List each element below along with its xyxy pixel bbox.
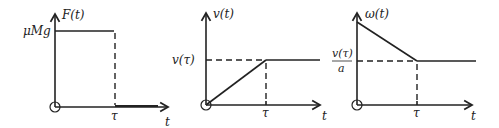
- panel-force: F(t) μMg τ t: [23, 8, 170, 128]
- tau-label: τ: [262, 106, 269, 120]
- omega-ramp: [357, 22, 417, 61]
- x-axis-label: t: [322, 109, 327, 123]
- omega-level-numerator: v(τ): [332, 47, 353, 60]
- velocity-ramp: [206, 60, 266, 105]
- y-axis-label: ω(t): [365, 7, 389, 21]
- x-axis-label: t: [471, 109, 476, 123]
- velocity-level-label: v(τ): [172, 53, 195, 67]
- diagram-canvas: F(t) μMg τ t v(t) v(τ) τ t ω(t) v(τ) a τ…: [0, 0, 499, 128]
- tau-label: τ: [111, 109, 118, 123]
- tau-label: τ: [413, 106, 420, 120]
- omega-level-denominator: a: [338, 62, 345, 75]
- y-axis-label: F(t): [61, 8, 85, 22]
- x-axis-label: t: [165, 115, 170, 128]
- force-level-label: μMg: [23, 24, 51, 38]
- y-axis-label: v(t): [213, 7, 234, 21]
- panel-angular-velocity: ω(t) v(τ) a τ t: [332, 7, 476, 123]
- panel-velocity: v(t) v(τ) τ t: [172, 7, 327, 123]
